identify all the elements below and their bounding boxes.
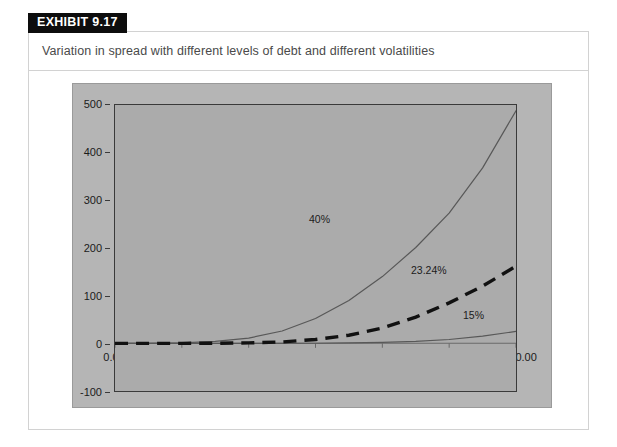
y-tick-300-text: 300	[84, 194, 102, 206]
y-tick-mark	[105, 248, 110, 249]
plot-curves-svg	[115, 105, 516, 391]
exhibit-caption-text: Variation in spread with different level…	[28, 44, 435, 58]
plot-area: 40% 23.24% 15%	[114, 104, 517, 392]
y-tick-neg100: -100	[64, 386, 110, 398]
exhibit-caption-strip: Variation in spread with different level…	[28, 31, 589, 71]
y-tick-mark	[105, 152, 110, 153]
x-axis-tickmarks	[115, 343, 516, 348]
y-tick-300: 300	[70, 194, 110, 206]
curve-label-23-24-percent: 23.24%	[411, 264, 447, 276]
y-tick-neg100-text: -100	[80, 386, 102, 398]
y-tick-500-text: 500	[84, 98, 102, 110]
y-tick-200-text: 200	[84, 242, 102, 254]
curve-label-15-percent: 15%	[463, 309, 484, 321]
y-tick-mark	[105, 392, 110, 393]
chart-container: 500 400 300 200 100 0 -100 0.00 100.00 2…	[72, 83, 552, 408]
curve-23-24-percent	[115, 266, 516, 343]
y-tick-mark	[105, 296, 110, 297]
y-tick-100: 100	[70, 290, 110, 302]
curve-label-40-percent: 40%	[309, 213, 330, 225]
y-tick-mark	[105, 344, 110, 345]
y-tick-0-text: 0	[96, 338, 102, 350]
curve-40-percent	[115, 111, 516, 344]
curve-15-percent	[115, 331, 516, 343]
y-tick-100-text: 100	[84, 290, 102, 302]
y-tick-400-text: 400	[84, 146, 102, 158]
y-tick-0: 0	[70, 338, 110, 350]
y-tick-400: 400	[70, 146, 110, 158]
y-tick-mark	[105, 104, 110, 105]
y-tick-500: 500	[70, 98, 110, 110]
y-tick-200: 200	[70, 242, 110, 254]
y-tick-mark	[105, 200, 110, 201]
exhibit-badge: EXHIBIT 9.17	[28, 13, 127, 33]
